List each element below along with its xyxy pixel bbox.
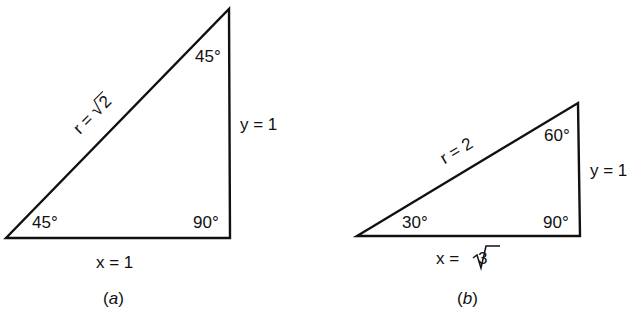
base-label-b: x = 3 — [436, 250, 487, 267]
angle-a-right: 90° — [193, 214, 219, 231]
base-label-a: x = 1 — [96, 254, 133, 271]
angle-b-bottom-left: 30° — [402, 214, 428, 231]
caption-a: (a) — [103, 290, 124, 307]
angle-a-top: 45° — [195, 48, 221, 65]
vertical-label-b: y = 1 — [590, 162, 627, 179]
angle-a-bottom-left: 45° — [32, 214, 58, 231]
triangle-a — [6, 9, 230, 238]
angle-b-top: 60° — [544, 127, 570, 144]
caption-b: (b) — [457, 290, 478, 307]
vertical-label-a: y = 1 — [240, 116, 277, 133]
angle-b-right: 90° — [543, 214, 569, 231]
